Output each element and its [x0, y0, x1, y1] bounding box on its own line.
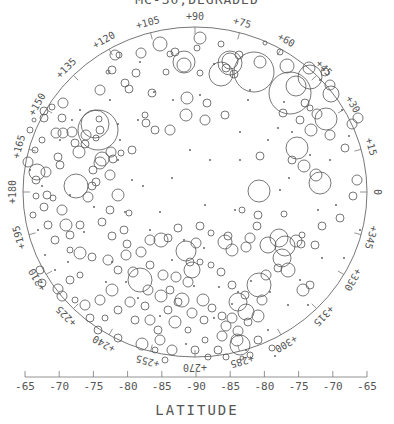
crater — [174, 224, 182, 232]
crater — [241, 291, 249, 299]
crater — [273, 249, 291, 267]
crater — [128, 146, 136, 154]
crater-dot — [149, 229, 151, 231]
crater — [352, 175, 362, 185]
crater — [252, 310, 264, 322]
crater — [176, 241, 196, 261]
latitude-axis — [25, 371, 367, 377]
crater — [155, 335, 165, 345]
crater — [108, 232, 116, 240]
crater-dot — [59, 139, 61, 141]
crater — [288, 156, 296, 164]
crater — [280, 59, 294, 73]
crater-dot — [185, 343, 187, 345]
crater — [203, 99, 211, 107]
x-axis-label: LATITUDE — [155, 402, 238, 418]
crater-dot — [67, 261, 69, 263]
crater — [126, 210, 132, 216]
x-tick-label: -80 — [118, 380, 138, 393]
crater-dot — [117, 123, 119, 125]
crater — [128, 268, 152, 292]
x-tick-label: -85 — [220, 380, 240, 393]
longitude-label: +60 — [276, 31, 297, 50]
crater — [197, 294, 209, 306]
crater-dot — [41, 185, 43, 187]
crater — [229, 293, 247, 311]
crater — [98, 218, 106, 226]
crater-dot — [299, 279, 301, 281]
crater — [226, 244, 238, 256]
crater-dot — [348, 135, 350, 137]
crater-dot — [125, 281, 127, 283]
crater — [241, 242, 251, 252]
crater-dot — [291, 131, 293, 133]
crater-dot — [277, 127, 279, 129]
crater — [57, 205, 67, 215]
crater — [32, 118, 36, 122]
crater-dot — [137, 297, 139, 299]
crater — [132, 69, 140, 77]
crater — [248, 180, 270, 202]
crater — [141, 302, 149, 310]
longitude-tick — [46, 271, 52, 275]
crater — [77, 272, 83, 278]
longitude-tick — [312, 75, 317, 80]
crater — [221, 111, 229, 119]
longitude-tick — [338, 110, 344, 114]
crater-dot — [231, 303, 233, 305]
crater — [142, 112, 148, 118]
crater-dot — [321, 257, 323, 259]
crater-dot — [183, 239, 185, 241]
crater-dot — [171, 177, 173, 179]
crater — [217, 331, 227, 341]
x-tick-label: -80 — [254, 380, 274, 393]
crater — [116, 52, 122, 58]
crater — [51, 236, 59, 244]
crater — [40, 203, 48, 211]
x-tick-label: -85 — [152, 380, 172, 393]
crater — [148, 89, 156, 97]
crater — [175, 293, 189, 307]
crater — [136, 338, 148, 350]
longitude-label: +105 — [135, 14, 161, 31]
longitude-label: +120 — [91, 29, 117, 51]
crater-dot — [142, 185, 144, 187]
longitude-label: +330 — [342, 267, 364, 293]
crater — [218, 235, 232, 249]
crater — [197, 70, 203, 76]
crater — [145, 315, 155, 325]
crater — [311, 241, 319, 249]
crater-dot — [249, 89, 251, 91]
crater-dot — [274, 355, 276, 357]
crater-dot — [319, 79, 321, 81]
crater — [318, 222, 326, 230]
crater-dot — [204, 204, 206, 206]
crater — [51, 128, 61, 138]
crater-dot — [189, 149, 191, 151]
crater — [56, 161, 64, 169]
crater — [95, 85, 105, 95]
crater — [185, 327, 191, 333]
crater — [202, 337, 208, 343]
crater — [154, 326, 162, 334]
crater — [194, 32, 206, 44]
crater — [30, 212, 36, 218]
longitude-tick — [109, 49, 113, 55]
crater — [102, 315, 108, 321]
crater-dot — [79, 109, 81, 111]
crater-dot — [279, 189, 281, 191]
crater — [143, 285, 153, 295]
crater — [120, 226, 128, 234]
crater — [299, 232, 305, 238]
longitude-tick — [238, 33, 240, 40]
crater — [81, 110, 109, 138]
crater — [136, 48, 146, 58]
crater — [169, 316, 181, 328]
longitude-label: +240 — [91, 333, 117, 355]
crater-dot — [234, 209, 236, 211]
crater-dot — [69, 194, 71, 196]
longitude-label: +270 — [183, 362, 207, 373]
longitude-label: +75 — [232, 15, 252, 30]
crater — [121, 250, 131, 260]
crater-dot — [343, 257, 345, 259]
